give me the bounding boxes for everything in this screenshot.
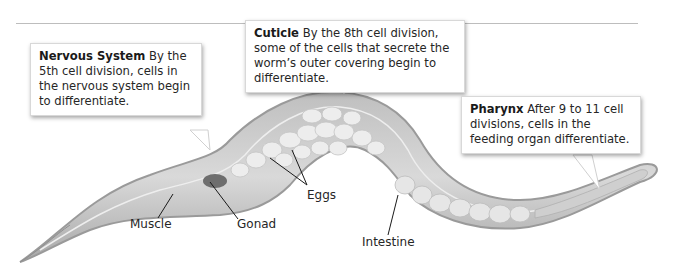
label-gonad: Gonad [237,217,276,231]
label-intestine: Intestine [362,235,415,249]
callout-pharynx: Pharynx After 9 to 11 cell divisions, ce… [461,96,641,154]
label-muscle: Muscle [130,217,172,231]
gonad-shape [203,174,227,188]
callout-title: Cuticle [254,26,299,40]
callout-title: Nervous System [39,49,145,63]
callout-cuticle: Cuticle By the 8th cell division, some o… [245,20,465,93]
label-eggs: Eggs [307,188,336,202]
callout-title: Pharynx [470,102,524,116]
callout-nervous-system: Nervous System By the 5th cell division,… [30,43,202,116]
